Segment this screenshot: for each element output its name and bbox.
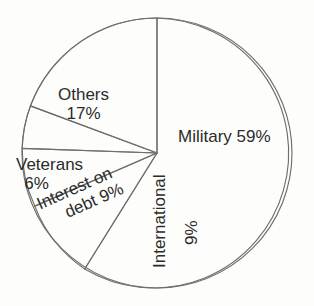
pie-label-international-name: International (150, 174, 169, 268)
pie-label-international-percent: 9% (182, 220, 201, 245)
pie-label-military: Military 59% (178, 127, 271, 146)
scanned-pie-chart-page: Military 59% Others 17% Veterans 6% Inte… (0, 0, 314, 306)
pie-label-others-percent: 17% (58, 104, 109, 123)
pie-label-others-name: Others (58, 85, 109, 104)
pie-label-veterans-name: Veterans (16, 155, 83, 174)
pie-label-others: Others 17% (58, 85, 109, 123)
